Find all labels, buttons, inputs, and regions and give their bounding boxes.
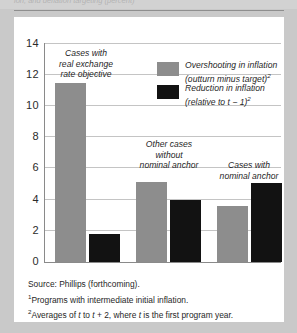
- plot-area: 14 12 10 8 6 4 2 0 Cases with real excha…: [14, 17, 284, 272]
- y-tick-10: 10: [17, 99, 39, 111]
- y-tick-6: 6: [17, 161, 39, 173]
- legend-overshooting-line1: Overshooting in inflation: [185, 60, 277, 71]
- group2-label-line1: Other cases: [119, 139, 219, 150]
- note-1: 1Programs with intermediate initial infl…: [28, 291, 278, 306]
- group-label-nominal-anchor: Cases with nominal anchor: [204, 160, 294, 181]
- note-2-post: + 2, where: [95, 310, 139, 320]
- bar-group3-reduction: [251, 183, 282, 262]
- gridline-14: [44, 43, 281, 44]
- figure-notes: Source: Phillips (forthcoming). 1Program…: [28, 279, 278, 321]
- note-2-pre: Averages of: [31, 310, 78, 320]
- legend-reduction-line2: (relative to t − 1): [185, 96, 247, 106]
- bar-group1-reduction: [89, 234, 120, 262]
- bar-group3-overshooting: [217, 206, 248, 262]
- legend-label-reduction: Reduction in inflation (relative to t − …: [185, 83, 265, 107]
- group1-label-line3: rate objective: [36, 69, 136, 80]
- group1-label-line1: Cases with: [36, 48, 136, 59]
- y-tick-4: 4: [17, 193, 39, 205]
- group-label-real-exchange-rate: Cases with real exchange rate objective: [36, 48, 136, 80]
- y-tick-0: 0: [17, 255, 39, 267]
- bar-group2-reduction: [170, 200, 201, 262]
- group3-label-line1: Cases with: [204, 160, 294, 171]
- y-tick-8: 8: [17, 130, 39, 142]
- note-2: 2Averages of t to t + 2, where t is the …: [28, 306, 278, 321]
- header-rule: [14, 10, 284, 11]
- note-2-end: is the first program year.: [141, 310, 233, 320]
- legend-reduction-line1: Reduction in inflation: [185, 83, 265, 94]
- y-tick-2: 2: [17, 224, 39, 236]
- legend-overshooting-sup: 2: [267, 72, 270, 79]
- legend-reduction-sup: 2: [247, 95, 250, 102]
- bar-group1-overshooting: [55, 83, 86, 262]
- x-axis-line: [44, 262, 281, 263]
- figure-page: ion, and deflation targeting (percent) 1…: [0, 0, 297, 333]
- note-2-mid: to: [81, 310, 93, 320]
- legend-overshooting-line2: (outturn minus target): [185, 73, 267, 83]
- bar-group2-overshooting: [136, 182, 167, 262]
- legend-swatch-overshooting: [157, 62, 179, 76]
- note-source: Source: Phillips (forthcoming).: [28, 279, 278, 291]
- note-1-text: Programs with intermediate initial infla…: [31, 294, 188, 304]
- legend-label-overshooting: Overshooting in inflation (outturn minus…: [185, 60, 277, 84]
- group1-label-line2: real exchange: [36, 59, 136, 70]
- legend-swatch-reduction: [157, 85, 179, 99]
- clipped-header-strip: ion, and deflation targeting (percent): [0, 0, 297, 9]
- chart-card: 14 12 10 8 6 4 2 0 Cases with real excha…: [14, 17, 284, 322]
- group3-label-line2: nominal anchor: [204, 171, 294, 182]
- clipped-header-text: ion, and deflation targeting (percent): [14, 0, 135, 5]
- group2-label-line2: without: [119, 150, 219, 161]
